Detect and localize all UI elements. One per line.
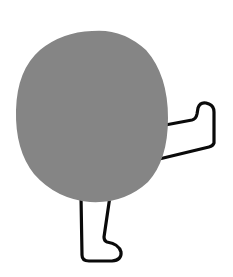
round-body [16, 31, 168, 203]
standing-leg [81, 196, 121, 261]
illustration-canvas [0, 0, 233, 277]
